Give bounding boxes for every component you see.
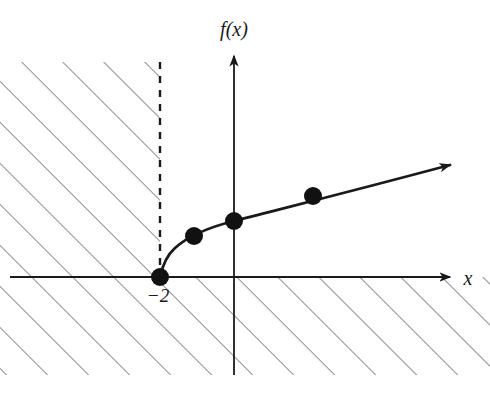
x-intercept-tick-label: −2 (147, 285, 170, 306)
graph-figure: f(x) x −2 (0, 0, 490, 399)
curve-point (185, 227, 203, 245)
y-axis-label: f(x) (220, 18, 248, 41)
curve-point (225, 212, 243, 230)
function-curve (160, 165, 450, 277)
curve-points (151, 187, 322, 286)
hatched-region-below (0, 277, 490, 375)
x-axis-label: x (463, 267, 473, 289)
hatched-region-left (0, 62, 160, 277)
curve-point (151, 268, 169, 286)
curve-point (304, 187, 322, 205)
graph-canvas: f(x) x −2 (0, 0, 490, 399)
